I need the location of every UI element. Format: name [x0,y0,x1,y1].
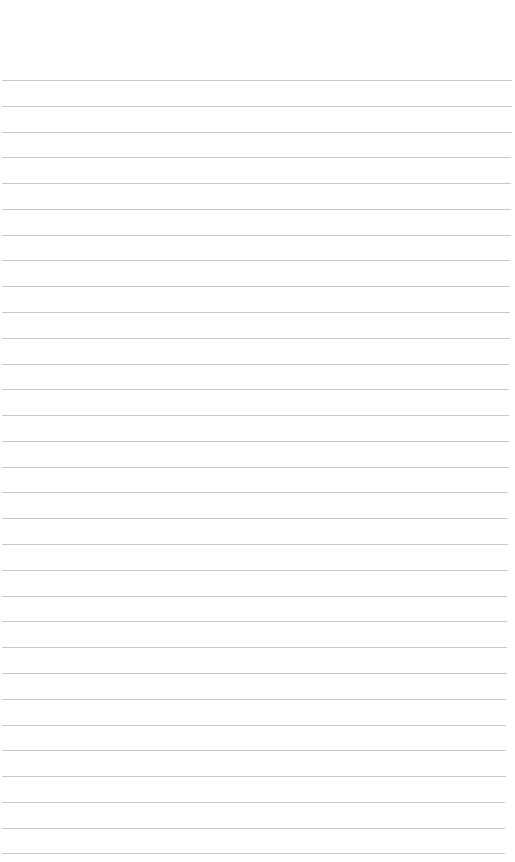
ruled-line [2,364,509,365]
ruled-line [2,106,512,107]
ruled-line [2,338,510,339]
ruled-line [2,209,511,210]
ruled-line [2,260,510,261]
ruled-line [2,544,508,545]
ruled-line [2,183,511,184]
ruled-line [2,157,511,158]
ruled-line [2,596,507,597]
ruled-line [2,467,509,468]
ruled-line [2,235,511,236]
ruled-line [2,80,512,81]
ruled-line [2,312,510,313]
ruled-line [2,647,507,648]
ruled-line [2,570,508,571]
ruled-line [2,415,509,416]
ruled-line [2,853,505,854]
ruled-line [2,828,505,829]
ruled-line [2,699,506,700]
ruled-line [2,492,508,493]
ruled-line [2,750,506,751]
ruled-line [2,441,509,442]
ruled-line [2,621,507,622]
ruled-line [2,132,512,133]
ruled-line [2,725,506,726]
ruled-line [2,518,508,519]
ruled-line [2,286,510,287]
ruled-line [2,389,509,390]
ruled-line [2,802,505,803]
ruled-line [2,776,506,777]
ruled-line [2,673,507,674]
